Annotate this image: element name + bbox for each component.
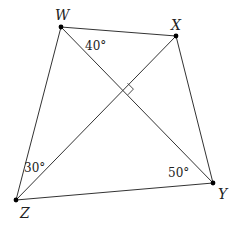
side-xy — [176, 36, 213, 183]
point-w — [59, 25, 64, 30]
side-yz — [16, 183, 213, 200]
vertex-label-x: X — [170, 17, 182, 33]
point-y — [211, 181, 216, 186]
angle-label-y: 50° — [168, 166, 189, 180]
diagram-canvas: W X Y Z 40° 30° 50° — [0, 0, 241, 229]
vertex-label-z: Z — [19, 205, 30, 221]
point-x — [174, 34, 179, 39]
side-wx — [61, 27, 176, 36]
vertex-label-w: W — [55, 7, 71, 23]
angle-label-z: 30° — [24, 161, 45, 175]
point-z — [14, 198, 19, 203]
angle-label-w: 40° — [85, 39, 106, 53]
diagonal-xz — [16, 36, 176, 200]
vertex-label-y: Y — [218, 186, 229, 202]
geometry-diagram: W X Y Z 40° 30° 50° — [0, 0, 241, 229]
diagonal-wy — [61, 27, 213, 183]
